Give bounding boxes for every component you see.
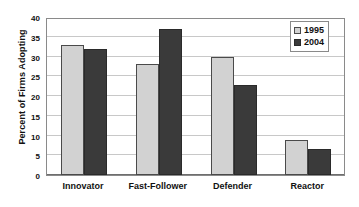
- y-axis-tick-labels: 0510152025303540: [22, 0, 40, 207]
- y-axis-tick-label: 10: [22, 132, 40, 141]
- bar-chart-figure: Percent of Firms Adopting 05101520253035…: [0, 0, 359, 207]
- bar: [285, 140, 308, 175]
- bar: [234, 85, 257, 175]
- bar-group: [197, 19, 272, 175]
- legend-swatch-icon: [294, 39, 301, 46]
- y-axis-tick-label: 5: [22, 152, 40, 161]
- bar: [211, 57, 234, 175]
- bar: [308, 149, 331, 175]
- legend: 1995 2004: [290, 21, 329, 52]
- bar-group: [47, 19, 122, 175]
- x-axis-tick-label: Innovator: [62, 181, 103, 191]
- bar: [159, 29, 182, 175]
- legend-item: 1995: [294, 24, 324, 36]
- legend-swatch-icon: [294, 27, 301, 34]
- legend-label: 2004: [304, 37, 324, 48]
- bar: [61, 45, 84, 175]
- y-axis-tick-label: 15: [22, 112, 40, 121]
- legend-item: 2004: [294, 36, 324, 48]
- legend-label: 1995: [304, 25, 324, 36]
- y-axis-tick-label: 25: [22, 73, 40, 82]
- y-axis-tick-label: 40: [22, 14, 40, 23]
- bar: [136, 64, 159, 175]
- x-axis-tick-label: Defender: [213, 181, 252, 191]
- bar: [84, 49, 107, 175]
- x-axis-tick-labels: InnovatorFast-FollowerDefenderReactor: [46, 181, 345, 199]
- y-axis-tick-label: 35: [22, 33, 40, 42]
- x-axis-tick-label: Reactor: [290, 181, 324, 191]
- y-axis-tick-label: 30: [22, 53, 40, 62]
- y-axis-tick-label: 20: [22, 93, 40, 102]
- y-axis-tick-label: 0: [22, 172, 40, 181]
- bar-group: [122, 19, 197, 175]
- x-axis-tick-label: Fast-Follower: [128, 181, 187, 191]
